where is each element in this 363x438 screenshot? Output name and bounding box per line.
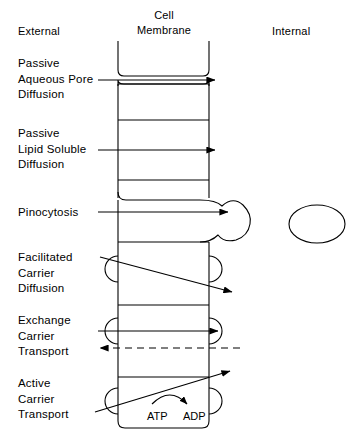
arrow-atp-to-adp [152, 395, 187, 404]
carrier-semicircle-right-active [209, 388, 222, 414]
membrane-segment-bottom [118, 377, 209, 428]
carrier-semicircle-right-facilitated [209, 256, 222, 282]
membrane-segment-top [118, 41, 209, 76]
membrane-transport-diagram: External Cell Membrane Internal Passive … [0, 0, 363, 438]
membrane-segment-2-bottom-round [118, 192, 200, 200]
membrane-segment-2-right [118, 84, 209, 198]
arrow-facilitated-carrier-diffusion [100, 257, 232, 292]
carrier-semicircle-left-active [105, 388, 118, 414]
diagram-artwork [0, 0, 363, 438]
pinocytosis-vesicle-lobe [200, 200, 250, 242]
membrane-segment-2-top-round [118, 80, 209, 86]
internal-vesicle-ellipse [289, 205, 345, 243]
